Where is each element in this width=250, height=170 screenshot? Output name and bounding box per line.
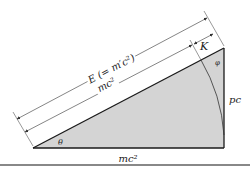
label-kinetic: K <box>199 40 209 53</box>
label-angle-phi: φ <box>215 59 220 67</box>
energy-triangle-diagram: E (= m′c²) mc² K pc mc² θ φ <box>0 0 250 170</box>
extension-line-left <box>13 112 33 146</box>
label-momentum: pc <box>229 94 241 105</box>
label-angle-theta: θ <box>58 138 63 147</box>
bottom-rule <box>0 164 250 166</box>
label-rest-energy-base: mc² <box>118 153 137 164</box>
